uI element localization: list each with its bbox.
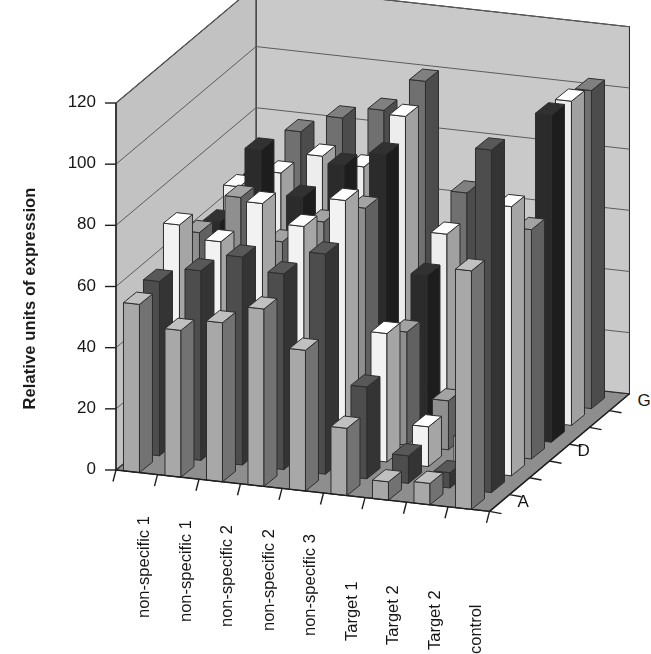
depth-tick-label: G — [638, 391, 651, 411]
